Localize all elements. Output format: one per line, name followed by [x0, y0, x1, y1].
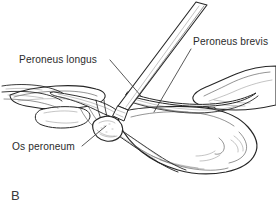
os-peroneum-group	[93, 116, 123, 141]
panel-letter: B	[11, 188, 20, 203]
label-peroneus-brevis: Peroneus brevis	[193, 36, 268, 47]
label-peroneus-longus: Peroneus longus	[19, 54, 97, 65]
metatarsal-base-bone	[35, 107, 90, 128]
label-os-peroneum: Os peroneum	[12, 141, 75, 152]
os-peroneum-sesamoid	[93, 116, 123, 141]
figure-panel: Peroneus longus Peroneus brevis Os peron…	[0, 0, 276, 209]
anatomical-illustration: Peroneus longus Peroneus brevis Os peron…	[0, 0, 276, 209]
